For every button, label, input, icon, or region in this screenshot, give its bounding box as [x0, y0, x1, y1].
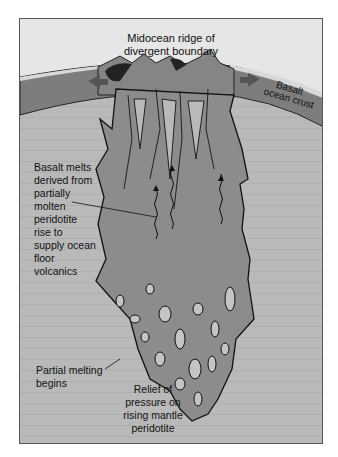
melts-label-line: rise to: [34, 226, 96, 239]
ridge-label-line: divergent boundary: [96, 45, 246, 58]
melts-label-line: Basalt melts: [34, 161, 96, 174]
partial-melting-label: Partial melting begins: [36, 364, 103, 390]
melts-label: Basalt melts derived from partially molt…: [34, 161, 96, 278]
melts-label-line: volcanics: [34, 265, 96, 278]
relief-label-line: pressure on: [108, 396, 198, 409]
relief-label-line: Relief of: [108, 383, 198, 396]
melts-label-line: partially: [34, 187, 96, 200]
melts-label-line: peridotite: [34, 213, 96, 226]
ridge-label: Midocean ridge of divergent boundary: [96, 32, 246, 58]
relief-label-line: rising mantle: [108, 409, 198, 422]
diagram-frame: Midocean ridge of divergent boundary Bas…: [19, 18, 323, 444]
relief-label: Relief of pressure on rising mantle peri…: [108, 383, 198, 435]
ridge-label-line: Midocean ridge of: [96, 32, 246, 45]
relief-label-line: peridotite: [108, 422, 198, 435]
partial-label-line: begins: [36, 377, 103, 390]
melts-label-line: molten: [34, 200, 96, 213]
melts-label-line: supply ocean: [34, 239, 96, 252]
partial-label-line: Partial melting: [36, 364, 103, 377]
melts-label-line: derived from: [34, 174, 96, 187]
melts-label-line: floor: [34, 252, 96, 265]
